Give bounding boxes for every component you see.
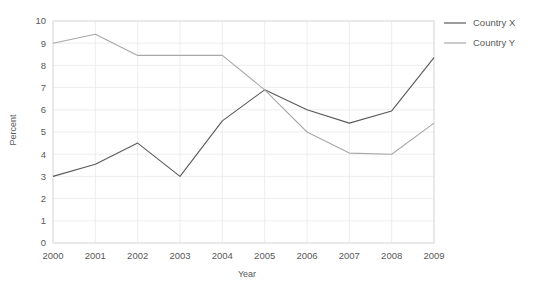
x-tick-label: 2003 xyxy=(169,250,190,261)
x-tick-label: 2000 xyxy=(42,250,63,261)
y-tick-label: 1 xyxy=(41,215,46,226)
x-axis-title: Year xyxy=(238,269,256,279)
x-tick-label: 2002 xyxy=(127,250,148,261)
x-tick-label: 2009 xyxy=(423,250,444,261)
legend-label-country-x: Country X xyxy=(473,17,516,28)
y-tick-label: 2 xyxy=(41,193,46,204)
y-tick-label: 10 xyxy=(35,15,46,26)
y-tick-label: 9 xyxy=(41,38,46,49)
x-tick-label: 2006 xyxy=(296,250,317,261)
y-tick-label: 5 xyxy=(41,126,46,137)
y-tick-label: 3 xyxy=(41,171,46,182)
chart-canvas: 012345678910 200020012002200320042005200… xyxy=(0,0,534,289)
line-chart: 012345678910 200020012002200320042005200… xyxy=(0,0,534,289)
x-tick-label: 2004 xyxy=(212,250,233,261)
x-tick-label: 2001 xyxy=(85,250,106,261)
legend-label-country-y: Country Y xyxy=(473,37,516,48)
x-tick-label: 2005 xyxy=(254,250,275,261)
y-tick-label: 8 xyxy=(41,60,46,71)
y-tick-label: 7 xyxy=(41,82,46,93)
x-tick-label: 2008 xyxy=(381,250,402,261)
y-tick-label: 0 xyxy=(41,237,46,248)
y-tick-label: 4 xyxy=(41,149,46,160)
y-tick-label: 6 xyxy=(41,104,46,115)
y-axis-title: Percent xyxy=(8,114,18,146)
x-tick-label: 2007 xyxy=(339,250,360,261)
